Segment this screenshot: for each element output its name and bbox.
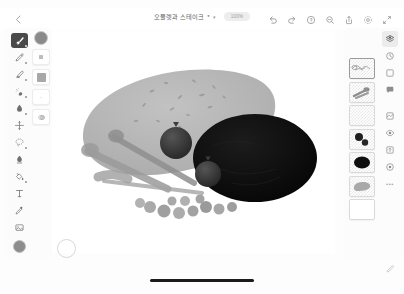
adjustments-icon [385,111,395,121]
eraser-icon [14,154,25,165]
chevron-down-icon[interactable]: ▾ [213,14,216,20]
rail-adjustments-button[interactable] [382,108,398,124]
airbrush-icon [14,86,25,97]
expand-arrows-icon [382,15,392,25]
rail-comments-button[interactable] [382,82,398,98]
layer-thumb-background [350,200,374,219]
tool-options-panel: ~ [31,31,51,125]
drawing-canvas[interactable] [52,31,335,253]
share-button[interactable] [339,10,358,29]
submenu-dot [25,62,27,64]
home-indicator[interactable] [150,279,254,282]
share-upload-icon [344,15,354,25]
option-brush-blend[interactable] [32,109,50,125]
layer-thumb-omelette [350,177,374,196]
submenu-dot [25,96,27,98]
layer-thumb-berries [350,130,374,149]
comment-bubble-icon [385,85,395,95]
blend-mode-icon [38,114,45,121]
tool-fill[interactable] [11,169,28,184]
more-dots-icon: ••• [386,181,394,187]
wave-tilde-icon: ~ [40,95,42,100]
submenu-dot [25,147,27,149]
rail-visibility-button[interactable] [382,125,398,141]
rail-effects-button[interactable] [382,159,398,175]
layer-item-berries[interactable] [349,129,375,150]
top-actions [263,10,396,29]
layer-item-utensils[interactable] [349,82,375,103]
tool-selection[interactable] [11,135,28,150]
rail-canvas-button[interactable] [382,65,398,81]
submenu-dot [25,45,27,47]
rail-layers-button[interactable] [382,31,398,47]
stylus-icon [385,264,395,274]
tool-pencil[interactable] [11,50,28,65]
help-circle-icon [306,15,316,25]
tool-image[interactable] [11,220,28,235]
layer-thumb-sketch [350,59,374,78]
tool-transform[interactable] [11,118,28,133]
submenu-dot [25,79,27,81]
left-toolbar [9,31,30,256]
foreground-color-swatch[interactable] [13,240,26,253]
submenu-dot [25,181,27,183]
app-root: 오믈렛과 스테이크 * ▾ 100% [0,0,404,294]
option-brush-smoothing[interactable]: ~ [32,89,50,105]
lasso-select-icon [14,137,25,148]
tool-airbrush[interactable] [11,84,28,99]
settings-button[interactable] [358,10,377,29]
image-frame-icon [14,222,25,233]
canvas-frame-icon [385,68,395,78]
layer-item-sketch[interactable] [349,58,375,79]
rail-export-button[interactable] [382,142,398,158]
redo-arrow-icon [287,15,297,25]
back-button[interactable] [10,11,26,27]
fullscreen-button[interactable] [377,10,396,29]
undo-button[interactable] [263,10,282,29]
layers-stack-icon [385,34,395,44]
eye-icon [385,128,395,138]
eyedropper-icon [14,205,25,216]
opacity-square-icon [37,73,46,82]
pea-row [135,195,237,220]
right-rail: ••• [380,31,400,192]
layer-item-background[interactable] [349,199,375,220]
undo-arrow-icon [268,15,278,25]
layer-thumb-utensils [350,83,374,102]
option-brush-color[interactable] [34,31,48,45]
zoom-level-badge[interactable]: 100% [224,12,251,21]
redo-button[interactable] [282,10,301,29]
color-wheel-button[interactable] [57,239,76,258]
layers-panel [348,58,376,220]
layer-thumb-steak [350,153,374,172]
tool-eraser[interactable] [11,152,28,167]
smudge-icon [14,103,25,114]
history-clock-icon [385,51,395,61]
brush-icon [14,35,25,46]
document-title[interactable]: 오믈렛과 스테이크 [154,12,205,21]
tool-eyedropper[interactable] [11,203,28,218]
pencil-icon [14,52,25,63]
layer-item-omelette[interactable] [349,176,375,197]
help-button[interactable] [301,10,320,29]
tool-smudge[interactable] [11,101,28,116]
tool-brush[interactable] [11,33,28,48]
layer-item-steak[interactable] [349,152,375,173]
rail-more-button[interactable]: ••• [382,176,398,192]
option-brush-size[interactable] [32,49,50,65]
paint-bucket-icon [14,171,25,182]
text-tool-icon [14,188,25,199]
rail-history-button[interactable] [382,48,398,64]
search-button[interactable] [320,10,339,29]
tool-marker[interactable] [11,67,28,82]
tool-text[interactable] [11,186,28,201]
layer-item-empty[interactable] [349,105,375,126]
option-brush-opacity[interactable] [32,69,50,85]
export-icon [385,145,395,155]
transform-icon [14,120,25,131]
artwork [52,31,335,253]
stylus-indicator [385,260,395,270]
steak-oval [193,114,317,202]
berry-small [195,161,221,187]
size-square-icon [39,55,43,59]
